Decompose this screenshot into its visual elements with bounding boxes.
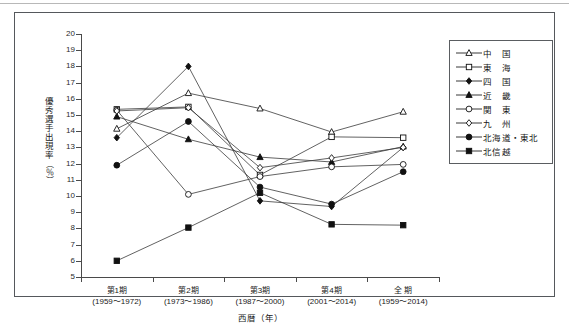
legend-item-1: 東 海 [455, 60, 546, 74]
x-axis-line [81, 277, 439, 278]
legend-label: 四 国 [483, 75, 511, 87]
legend-label: 北海道・東北 [483, 131, 539, 143]
legend-label: 関 東 [483, 103, 511, 115]
y-tick-label: 11 [53, 176, 75, 184]
legend-marker-icon [455, 102, 483, 116]
figure-frame: 201918171615141312111098765 第1期(1959～197… [14, 12, 555, 297]
legend-item-4: 関 東 [455, 102, 546, 116]
x-tick [153, 277, 154, 282]
series-layer [81, 34, 439, 277]
data-point [400, 144, 405, 151]
legend-marker-icon [455, 116, 483, 130]
data-point [329, 155, 334, 162]
data-point [186, 225, 191, 230]
x-category-label: 全 期(1959～2014) [355, 286, 451, 307]
data-point [400, 162, 406, 168]
legend-item-6: 北海道・東北 [455, 130, 546, 144]
legend-label: 東 海 [483, 61, 511, 73]
data-point [401, 135, 406, 140]
legend-label: 中 国 [483, 47, 511, 59]
legend-marker-icon [455, 130, 483, 144]
y-tick-label: 13 [53, 143, 75, 151]
x-tick [224, 277, 225, 282]
x-category-years: (1959～2014) [355, 297, 451, 308]
x-axis-title: 西暦（年） [81, 311, 439, 323]
data-point [185, 90, 191, 96]
x-category-period: 全 期 [355, 286, 451, 297]
y-tick-label: 5 [53, 273, 75, 281]
data-point [114, 125, 120, 131]
data-point [257, 174, 263, 180]
data-point [400, 108, 406, 114]
data-point [114, 258, 119, 263]
series-line [117, 93, 403, 132]
y-axis-title-main: 優秀選手出現率 [43, 97, 53, 160]
data-point [257, 164, 262, 171]
data-point [329, 222, 334, 227]
legend-item-7: 北信越 [455, 144, 546, 158]
data-point [329, 134, 334, 139]
legend-marker-icon [455, 74, 483, 88]
legend-marker-icon [455, 46, 483, 60]
x-tick [81, 277, 82, 282]
series-5 [114, 104, 406, 171]
y-tick-label: 18 [53, 62, 75, 70]
x-tick [439, 277, 440, 282]
y-tick-label: 6 [53, 257, 75, 265]
y-tick-label: 14 [53, 127, 75, 135]
page-top-rule [0, 3, 569, 4]
legend-item-3: 近 畿 [455, 88, 546, 102]
data-point [329, 201, 335, 207]
series-line [117, 110, 403, 194]
y-tick-label: 10 [53, 192, 75, 200]
series-3 [114, 113, 407, 164]
legend-label: 近 畿 [483, 89, 511, 101]
legend-marker-icon [455, 144, 483, 158]
y-tick-label: 9 [53, 208, 75, 216]
legend-label: 九 州 [483, 117, 511, 129]
y-tick-label: 15 [53, 111, 75, 119]
legend: 中 国東 海四 国近 畿関 東九 州北海道・東北北信越 [449, 40, 553, 164]
legend-item-2: 四 国 [455, 74, 546, 88]
data-point [257, 198, 262, 205]
x-tick [296, 277, 297, 282]
legend-item-0: 中 国 [455, 46, 546, 60]
y-tick-label: 7 [53, 241, 75, 249]
y-tick-label: 8 [53, 224, 75, 232]
legend-label: 北信越 [483, 145, 511, 157]
y-tick-label: 16 [53, 95, 75, 103]
y-axis-title-unit: （％） [44, 160, 53, 184]
data-point [400, 169, 406, 175]
data-point [257, 184, 263, 190]
y-axis-title: 優秀選手出現率（％） [39, 97, 53, 184]
y-tick-label: 12 [53, 160, 75, 168]
y-tick-label: 19 [53, 46, 75, 54]
y-tick-label: 17 [53, 79, 75, 87]
data-point [114, 162, 120, 168]
data-point [329, 164, 335, 170]
x-tick [367, 277, 368, 282]
legend-marker-icon [455, 60, 483, 74]
series-0 [114, 90, 407, 135]
data-point [257, 190, 262, 195]
data-point [401, 222, 406, 227]
y-tick-label: 20 [53, 30, 75, 38]
data-point [186, 119, 192, 125]
legend-item-5: 九 州 [455, 116, 546, 130]
legend-marker-icon [455, 88, 483, 102]
data-point [186, 191, 192, 197]
plot-area: 201918171615141312111098765 第1期(1959～197… [81, 34, 439, 277]
